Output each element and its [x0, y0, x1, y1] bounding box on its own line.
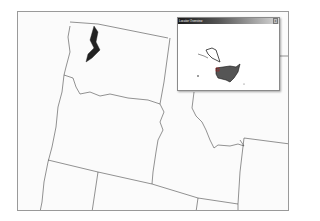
wy-north-border: [244, 138, 289, 144]
ca-nv-border: [92, 172, 98, 211]
us-locator-map: [178, 24, 279, 90]
overview-window[interactable]: Locator Overview x: [177, 17, 280, 91]
puerto-rico-shape: [244, 84, 245, 85]
wy-west-border: [238, 138, 244, 211]
aleutians: [198, 54, 208, 58]
id-mt-border: [192, 92, 244, 148]
id-south-border: [152, 184, 238, 204]
or-id-border: [152, 104, 164, 184]
conterminous-us-shape: [216, 64, 240, 82]
wa-or-border: [64, 75, 160, 104]
nv-ut-border: [196, 198, 198, 211]
washington-coast: [64, 26, 70, 75]
alaska-shape: [206, 48, 220, 62]
washington-north-border: [70, 22, 168, 38]
oregon-coast: [40, 75, 64, 211]
wa-id-border: [160, 38, 170, 104]
or-south-border: [48, 160, 152, 184]
puget-sound: [86, 26, 100, 62]
overview-map[interactable]: [178, 24, 279, 90]
hawaii-shape: [197, 75, 199, 77]
overview-title: Locator Overview: [179, 19, 202, 24]
